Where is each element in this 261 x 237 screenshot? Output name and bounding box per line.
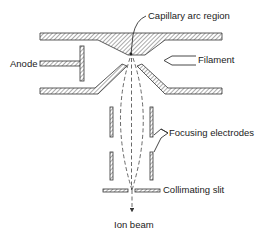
filament bbox=[164, 56, 196, 65]
label-ion-beam: Ion beam bbox=[114, 219, 154, 230]
ion-beam-path bbox=[120, 58, 143, 210]
label-collimating-slit: Collimating slit bbox=[163, 184, 225, 195]
lower-right-plate bbox=[137, 64, 222, 94]
label-focusing-electrodes: Focusing electrodes bbox=[169, 127, 254, 138]
label-filament: Filament bbox=[198, 54, 235, 65]
label-anode: Anode bbox=[10, 58, 37, 69]
focusing-leader-lines bbox=[154, 129, 168, 152]
anode bbox=[40, 46, 84, 81]
ion-source-diagram: Capillary arc region Anode Filament Focu… bbox=[0, 0, 261, 237]
label-capillary-arc-region: Capillary arc region bbox=[148, 10, 230, 21]
